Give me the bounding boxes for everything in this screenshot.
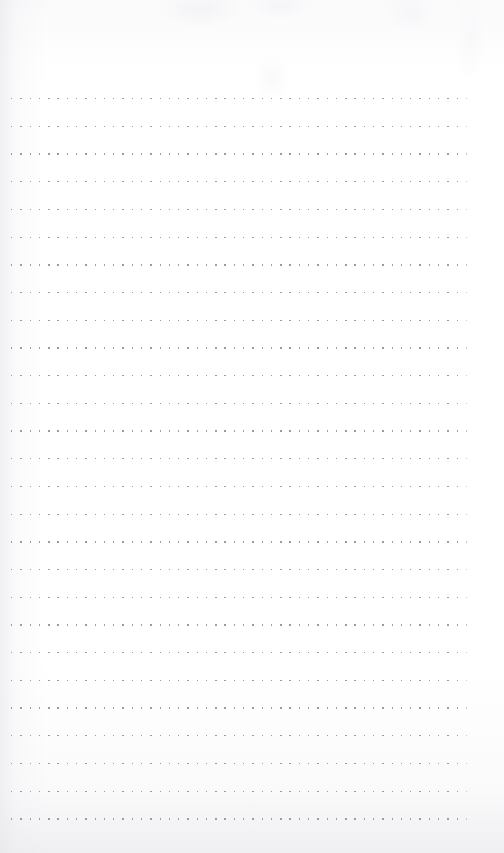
grid-dot (354, 735, 355, 736)
grid-dot (299, 680, 300, 681)
grid-dot (206, 347, 207, 348)
grid-dot (262, 237, 263, 238)
grid-dot (95, 126, 96, 127)
grid-dot (57, 569, 58, 570)
grid-dot (419, 320, 420, 321)
grid-dot (122, 375, 123, 376)
grid-dot (132, 652, 133, 653)
grid-dot (345, 818, 346, 819)
grid-dot (30, 264, 31, 265)
grid-dot (327, 569, 328, 570)
grid-dot (262, 264, 263, 265)
grid-dot (169, 181, 170, 182)
grid-dot (113, 126, 114, 127)
grid-dot (308, 514, 309, 515)
grid-dot (419, 791, 420, 792)
grid-dot (280, 375, 281, 376)
grid-dot (382, 264, 383, 265)
dot-rule-line (0, 264, 467, 266)
grid-dot (243, 430, 244, 431)
grid-dot (373, 181, 374, 182)
grid-dot (410, 181, 411, 182)
grid-dot (354, 652, 355, 653)
grid-dot (215, 624, 216, 625)
grid-dot (48, 624, 49, 625)
grid-dot (317, 624, 318, 625)
grid-dot (438, 98, 439, 99)
grid-dot (197, 430, 198, 431)
grid-dot (271, 680, 272, 681)
grid-dot (364, 209, 365, 210)
grid-dot (354, 264, 355, 265)
grid-dot (345, 707, 346, 708)
grid-dot (234, 569, 235, 570)
grid-dot (113, 680, 114, 681)
grid-dot (299, 292, 300, 293)
grid-dot (271, 624, 272, 625)
grid-dot (67, 569, 68, 570)
grid-dot (327, 514, 328, 515)
dot-rule-line (0, 430, 467, 432)
grid-dot (419, 652, 420, 653)
grid-dot (215, 320, 216, 321)
grid-dot (30, 486, 31, 487)
grid-dot (132, 430, 133, 431)
grid-dot (95, 430, 96, 431)
grid-dot (327, 181, 328, 182)
grid-dot (67, 541, 68, 542)
grid-dot (382, 763, 383, 764)
grid-dot (104, 237, 105, 238)
grid-dot (104, 541, 105, 542)
grid-dot (262, 791, 263, 792)
grid-dot (457, 181, 458, 182)
grid-dot (76, 652, 77, 653)
grid-dot (178, 430, 179, 431)
grid-dot (104, 153, 105, 154)
grid-dot (382, 181, 383, 182)
grid-dot (141, 569, 142, 570)
grid-dot (262, 403, 263, 404)
grid-dot (150, 153, 151, 154)
grid-dot (20, 153, 21, 154)
grid-dot (132, 375, 133, 376)
grid-dot (345, 209, 346, 210)
grid-dot (187, 597, 188, 598)
grid-dot (336, 153, 337, 154)
grid-dot (122, 458, 123, 459)
grid-dot (95, 652, 96, 653)
grid-dot (187, 707, 188, 708)
grid-dot (39, 680, 40, 681)
grid-dot (150, 458, 151, 459)
grid-dot (280, 680, 281, 681)
grid-dot (299, 430, 300, 431)
grid-dot (429, 181, 430, 182)
grid-dot (169, 791, 170, 792)
grid-dot (30, 514, 31, 515)
grid-dot (392, 237, 393, 238)
grid-dot (289, 458, 290, 459)
grid-dot (327, 458, 328, 459)
grid-dot (67, 347, 68, 348)
grid-dot (354, 237, 355, 238)
grid-dot (234, 707, 235, 708)
grid-dot (457, 652, 458, 653)
grid-dot (429, 652, 430, 653)
grid-dot (447, 209, 448, 210)
grid-dot (122, 237, 123, 238)
grid-dot (382, 486, 383, 487)
grid-dot (187, 347, 188, 348)
grid-dot (354, 430, 355, 431)
grid-dot (262, 707, 263, 708)
grid-dot (48, 264, 49, 265)
grid-dot (392, 153, 393, 154)
grid-dot (76, 597, 77, 598)
grid-dot (336, 375, 337, 376)
grid-dot (224, 569, 225, 570)
grid-dot (345, 430, 346, 431)
grid-dot (327, 126, 328, 127)
grid-dot (150, 791, 151, 792)
grid-dot (410, 237, 411, 238)
grid-dot (317, 707, 318, 708)
grid-dot (401, 181, 402, 182)
grid-dot (289, 237, 290, 238)
